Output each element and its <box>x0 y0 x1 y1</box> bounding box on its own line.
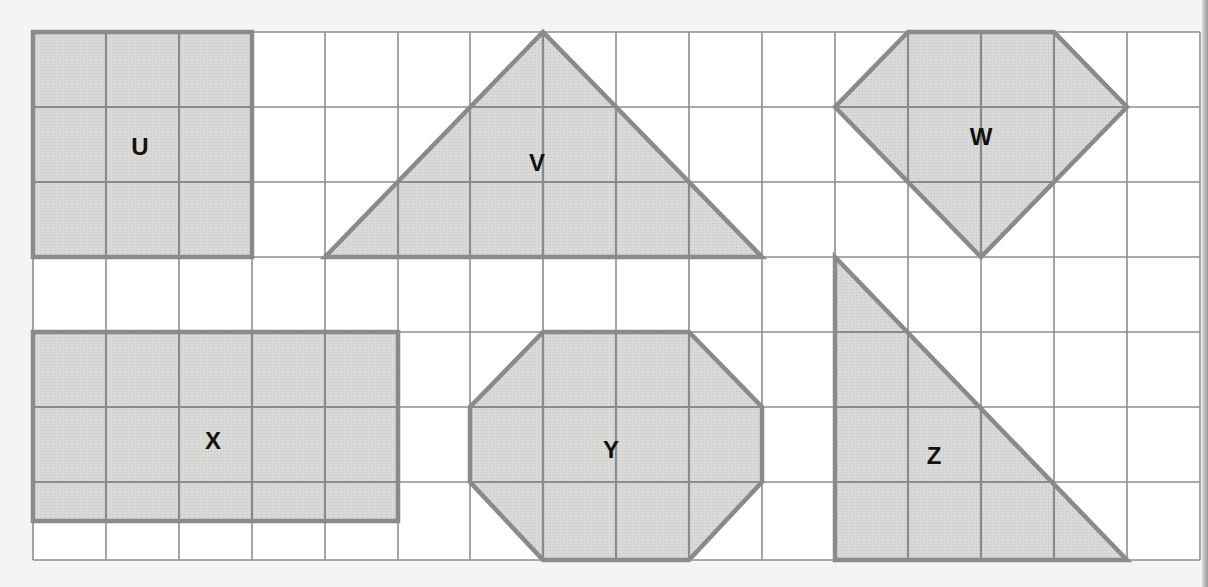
shape-label-v: V <box>529 149 545 176</box>
shape-label-u: U <box>131 133 148 160</box>
shape-label-y: Y <box>603 436 619 463</box>
shape-label-x: X <box>205 427 221 454</box>
page-edge-shadow <box>1202 0 1208 587</box>
shape-label-w: W <box>970 123 993 150</box>
grid-diagram: UVWXYZ <box>0 0 1208 587</box>
shape-label-z: Z <box>927 442 942 469</box>
grid-canvas: UVWXYZ <box>0 0 1208 587</box>
